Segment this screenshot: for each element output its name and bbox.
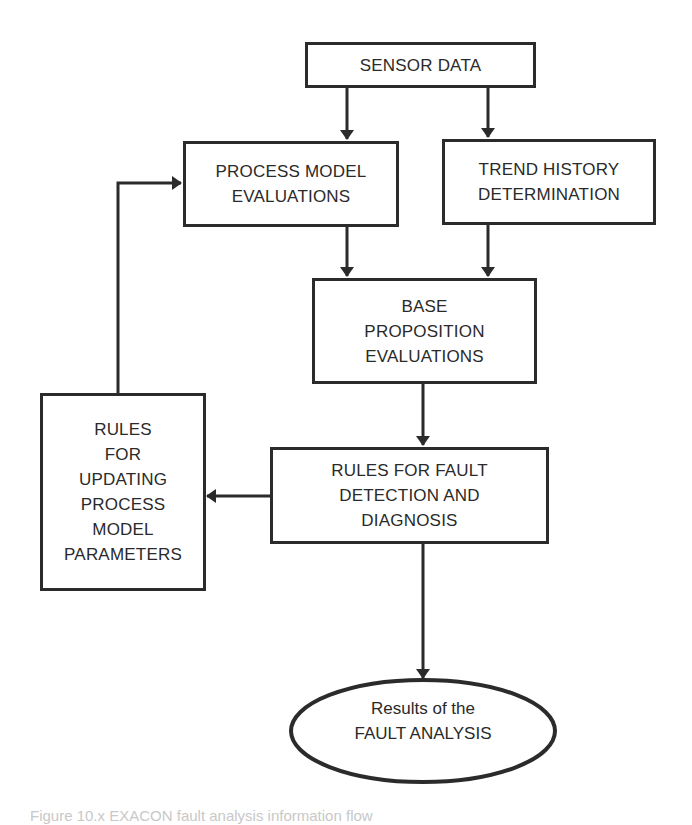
node-label: PROCESS MODEL EVALUATIONS bbox=[216, 159, 367, 209]
edge-updating-rules-to-process-model bbox=[118, 183, 181, 393]
node-base-proposition-evaluations: BASE PROPOSITION EVALUATIONS bbox=[312, 278, 537, 384]
figure-caption: Figure 10.x EXACON fault analysis inform… bbox=[30, 807, 670, 825]
node-label: RULES FOR UPDATING PROCESS MODEL PARAMET… bbox=[64, 417, 182, 567]
node-rules-updating-parameters: RULES FOR UPDATING PROCESS MODEL PARAMET… bbox=[40, 393, 206, 591]
node-label: BASE PROPOSITION EVALUATIONS bbox=[364, 294, 484, 369]
node-label: TREND HISTORY DETERMINATION bbox=[478, 157, 620, 207]
node-sensor-data: SENSOR DATA bbox=[305, 42, 536, 88]
node-results-fault-analysis: Results of the FAULT ANALYSIS bbox=[291, 696, 555, 746]
node-trend-history-determination: TREND HISTORY DETERMINATION bbox=[442, 139, 656, 225]
node-label: RULES FOR FAULT DETECTION AND DIAGNOSIS bbox=[331, 458, 488, 533]
node-process-model-evaluations: PROCESS MODEL EVALUATIONS bbox=[183, 141, 399, 227]
node-rules-fault-detection: RULES FOR FAULT DETECTION AND DIAGNOSIS bbox=[270, 447, 549, 544]
node-label: SENSOR DATA bbox=[360, 53, 482, 78]
